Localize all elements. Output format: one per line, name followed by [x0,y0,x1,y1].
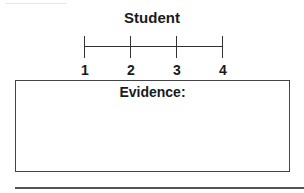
scale-tick-4[interactable] [222,36,223,58]
scale-label-3: 3 [167,62,187,78]
bottom-rule [15,187,304,189]
section-title: Student [0,9,304,26]
scale-tick-1[interactable] [84,36,85,58]
scale-tick-3[interactable] [176,36,177,58]
evidence-box[interactable]: Evidence: [15,80,290,172]
scale-label-4: 4 [213,62,233,78]
top-faint-rule [6,3,66,4]
scale-line [84,46,222,47]
evidence-label: Evidence: [16,84,289,100]
scale-label-1: 1 [75,62,95,78]
scale-label-2: 2 [121,62,141,78]
scale-tick-2[interactable] [130,36,131,58]
